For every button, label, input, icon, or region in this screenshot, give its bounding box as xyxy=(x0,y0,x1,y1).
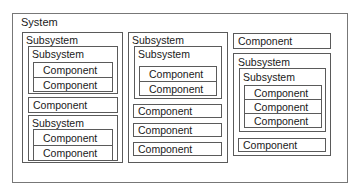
col2-inner-component-2: Component xyxy=(139,81,217,96)
col3-inner-component-3: Component xyxy=(244,113,322,128)
col3-inner-subsystem-label: Subsystem xyxy=(243,71,295,83)
col2-component-2: Component xyxy=(133,123,222,137)
col1-lower-component-1: Component xyxy=(33,129,113,145)
col1-subsystem-label: Subsystem xyxy=(26,34,78,46)
col3-bottom-component: Component xyxy=(238,138,326,152)
col2-inner-subsystem-label: Subsystem xyxy=(138,48,190,60)
col2-subsystem-label: Subsystem xyxy=(132,34,184,46)
system-label: System xyxy=(21,16,58,28)
col2-component-1: Component xyxy=(133,104,222,118)
col2-component-3: Component xyxy=(133,142,222,156)
col1-lower-subsystem-label: Subsystem xyxy=(32,117,84,129)
col2-inner-component-1: Component xyxy=(139,66,217,81)
col1-inner-subsystem-label: Subsystem xyxy=(32,48,84,60)
col3-inner-component-1: Component xyxy=(244,85,322,99)
col1-inner-component-1: Component xyxy=(33,62,113,77)
col1-inner-component-2: Component xyxy=(33,77,113,92)
col3-inner-component-2: Component xyxy=(244,99,322,113)
col1-component: Component xyxy=(28,97,118,113)
col3-top-component: Component xyxy=(233,33,331,49)
col3-subsystem-label: Subsystem xyxy=(238,56,290,68)
col1-lower-component-2: Component xyxy=(33,145,113,161)
